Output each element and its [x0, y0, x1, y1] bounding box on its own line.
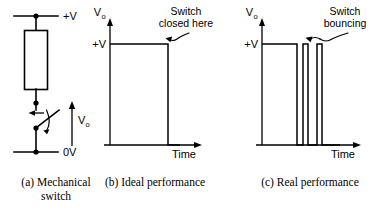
panel-b-y-tick-label: +V: [92, 38, 106, 50]
panel-b-y-axis-label-subscript: o: [102, 12, 106, 21]
figure-root: +V 0V: [0, 0, 390, 214]
panel-b-x-axis-label: Time: [172, 148, 196, 160]
panel-b-caption: (b) Ideal performance: [105, 176, 205, 189]
panel-c-chart: V o +V Time Switch bouncing (c) Real per…: [244, 5, 366, 189]
panel-c-waveform: [262, 44, 340, 145]
output-voltage-arrowhead: [69, 101, 75, 109]
panel-a-caption-line1: (a) Mechanical: [21, 176, 90, 189]
ground-label: 0V: [63, 146, 77, 158]
panel-b-y-axis-arrowhead: [107, 18, 113, 26]
panel-a-circuit: +V 0V: [14, 10, 91, 202]
panel-c-y-axis-label-subscript: o: [254, 12, 258, 21]
panel-c-y-axis-label: V: [246, 6, 254, 18]
panel-b-annotation-line2: closed here: [159, 17, 213, 29]
panel-b-chart: V o +V Time Switch closed here (b) Ideal…: [92, 5, 213, 189]
panel-c-annotation-leader: [320, 33, 348, 41]
panel-a-caption-line2: switch: [41, 190, 71, 202]
panel-c-caption: (c) Real performance: [261, 176, 359, 189]
switch-actuation-arrowhead: [43, 129, 49, 134]
supply-label: +V: [63, 10, 77, 22]
panel-b-y-axis-label: V: [94, 6, 102, 18]
panel-c-y-axis-arrowhead: [259, 18, 265, 26]
panel-b-waveform: [110, 44, 180, 145]
switch-actuation-arc: [47, 110, 50, 131]
ground-node-dot: [33, 149, 38, 154]
panel-b-annotation-line1: Switch: [171, 5, 202, 17]
figure-svg: +V 0V: [0, 0, 390, 214]
panel-c-annotation-arrowhead: [306, 36, 313, 42]
resistor-icon: [25, 31, 48, 90]
panel-c-y-tick-label: +V: [244, 38, 258, 50]
panel-c-annotation-leader-tail: [311, 38, 321, 40]
panel-c-annotation-line2: bouncing: [324, 17, 367, 29]
panel-c-x-axis-label: Time: [331, 148, 355, 160]
switch-contact-arrowhead: [29, 110, 36, 116]
output-voltage-label-subscript: o: [86, 120, 90, 129]
panel-c-annotation-line1: Switch: [330, 5, 361, 17]
panel-b-annotation-arrowhead: [166, 37, 173, 43]
